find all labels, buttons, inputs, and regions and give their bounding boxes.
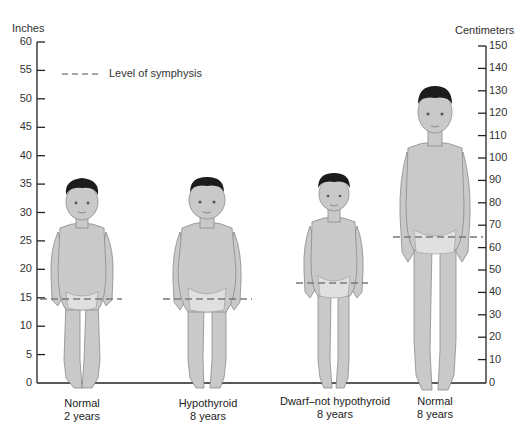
right-tick-20: 20 (489, 331, 519, 342)
caption-line2: 8 years (408, 408, 462, 421)
left-tick-55: 55 (4, 64, 32, 75)
right-tick-140: 140 (489, 62, 519, 73)
legend-label: Level of symphysis (109, 67, 202, 79)
right-tick-110: 110 (489, 130, 519, 141)
caption-dwarf-8-years: Dwarf–not hypothyroid 8 years (274, 395, 396, 421)
left-axis (37, 42, 45, 383)
right-axis (478, 46, 486, 383)
figure-hypothyroid-8-years (163, 177, 252, 388)
left-tick-35: 35 (4, 178, 32, 189)
right-tick-60: 60 (489, 242, 519, 253)
right-tick-120: 120 (489, 107, 519, 118)
caption-line2: 2 years (52, 410, 112, 423)
right-tick-70: 70 (489, 219, 519, 230)
caption-line2: 8 years (170, 410, 246, 423)
left-tick-25: 25 (4, 235, 32, 246)
left-tick-40: 40 (4, 150, 32, 161)
right-tick-40: 40 (489, 286, 519, 297)
caption-line2: 8 years (274, 408, 396, 421)
right-tick-90: 90 (489, 174, 519, 185)
growth-comparison-diagram (0, 0, 522, 432)
left-tick-10: 10 (4, 320, 32, 331)
caption-line1: Normal (52, 397, 112, 410)
caption-line1: Normal (408, 395, 462, 408)
right-tick-80: 80 (489, 197, 519, 208)
caption-line1: Dwarf–not hypothyroid (274, 395, 396, 408)
right-tick-10: 10 (489, 354, 519, 365)
caption-hypothyroid-8-years: Hypothyroid 8 years (170, 397, 246, 423)
left-tick-30: 30 (4, 207, 32, 218)
left-tick-50: 50 (4, 93, 32, 104)
right-tick-130: 130 (489, 85, 519, 96)
left-tick-0: 0 (4, 377, 32, 388)
right-tick-50: 50 (489, 264, 519, 275)
right-tick-150: 150 (489, 40, 519, 51)
figure-normal-8-years (393, 86, 483, 390)
right-tick-100: 100 (489, 152, 519, 163)
caption-normal-8-years: Normal 8 years (408, 395, 462, 421)
caption-normal-2-years: Normal 2 years (52, 397, 112, 423)
right-tick-30: 30 (489, 309, 519, 320)
figure-dwarf-8-years (296, 173, 368, 388)
left-tick-45: 45 (4, 121, 32, 132)
right-tick-0: 0 (489, 377, 519, 388)
caption-line1: Hypothyroid (170, 397, 246, 410)
figure-normal-2-years (40, 178, 122, 388)
left-tick-15: 15 (4, 292, 32, 303)
left-tick-60: 60 (4, 36, 32, 47)
left-tick-5: 5 (4, 349, 32, 360)
left-tick-20: 20 (4, 263, 32, 274)
